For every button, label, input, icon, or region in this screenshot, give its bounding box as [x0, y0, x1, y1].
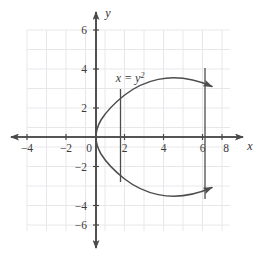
- y-tick-label: 2: [81, 102, 87, 114]
- equation-label-base: x = y: [115, 71, 141, 85]
- x-tick-label: −4: [21, 142, 33, 154]
- vertical-test-lines: [121, 68, 206, 199]
- y-tick-label: −6: [75, 219, 87, 231]
- x-tick-label: 2: [122, 142, 128, 154]
- parabola-upper-branch: [96, 78, 212, 137]
- y-tick-label: −2: [75, 161, 87, 173]
- x-tick-label: 8: [223, 142, 229, 154]
- equation-label: x = y2: [115, 71, 145, 85]
- grid-lines: [27, 30, 230, 231]
- y-tick-label: 4: [81, 63, 87, 75]
- coordinate-plane-svg: −4 −2 0 2 4 6 8 6 4 2 −2 −4 −6 x y: [0, 0, 260, 261]
- x-axis-label: x: [246, 139, 253, 153]
- y-axis-label: y: [104, 6, 111, 20]
- axes: [11, 12, 243, 248]
- equation-label-exponent: 2: [140, 71, 144, 80]
- x-tick-label: 4: [161, 142, 167, 154]
- y-tick-label: 6: [81, 24, 87, 36]
- x-tick-labels: −4 −2 0 2 4 6 8: [21, 142, 229, 154]
- x-tick-label: −2: [60, 142, 72, 154]
- graph-figure: −4 −2 0 2 4 6 8 6 4 2 −2 −4 −6 x y: [0, 0, 260, 261]
- x-tick-label-origin: 0: [86, 142, 92, 154]
- y-tick-label: −4: [75, 200, 87, 212]
